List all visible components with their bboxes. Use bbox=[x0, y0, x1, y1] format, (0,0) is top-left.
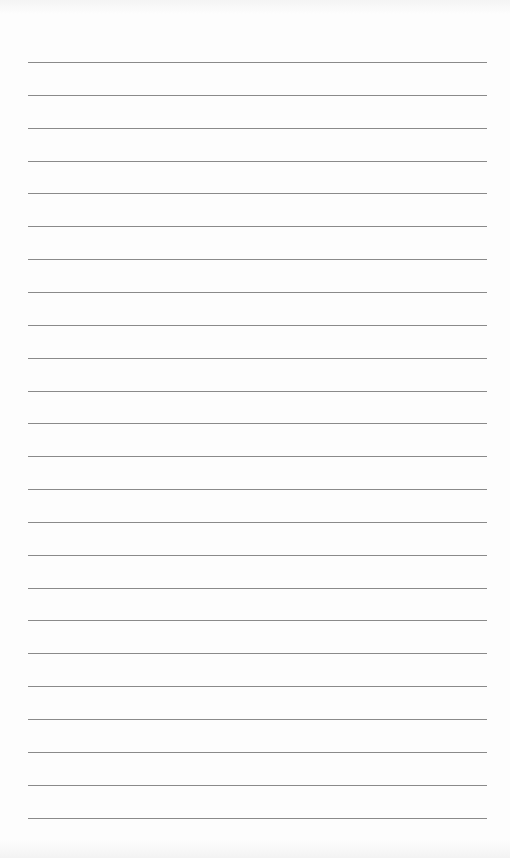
ruled-line bbox=[28, 128, 487, 129]
ruled-line bbox=[28, 456, 487, 457]
ruled-line bbox=[28, 620, 487, 621]
ruled-line bbox=[28, 358, 487, 359]
ruled-line bbox=[28, 522, 487, 523]
ruled-line bbox=[28, 62, 487, 63]
ruled-line bbox=[28, 588, 487, 589]
ruled-line bbox=[28, 292, 487, 293]
ruled-line bbox=[28, 391, 487, 392]
lined-paper-page bbox=[0, 0, 510, 858]
ruled-line bbox=[28, 161, 487, 162]
ruled-line bbox=[28, 752, 487, 753]
ruled-line bbox=[28, 95, 487, 96]
ruled-line bbox=[28, 785, 487, 786]
ruled-line bbox=[28, 719, 487, 720]
ruled-line bbox=[28, 259, 487, 260]
ruled-line bbox=[28, 686, 487, 687]
ruled-line bbox=[28, 653, 487, 654]
ruled-line bbox=[28, 818, 487, 819]
ruled-line bbox=[28, 423, 487, 424]
ruled-line bbox=[28, 193, 487, 194]
ruled-line bbox=[28, 325, 487, 326]
ruled-line bbox=[28, 226, 487, 227]
ruled-line bbox=[28, 489, 487, 490]
ruled-line bbox=[28, 555, 487, 556]
